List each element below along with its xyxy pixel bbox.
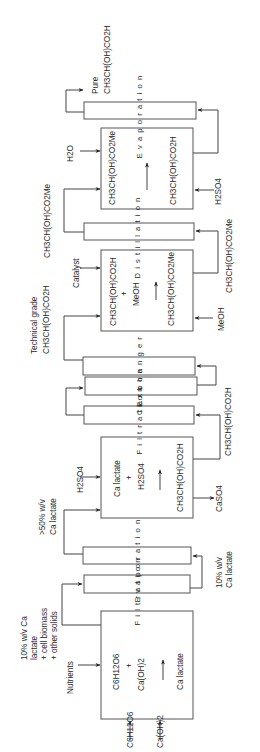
crude-lactic-acid-label: CH3CH(OH)CO2H bbox=[224, 387, 233, 456]
methyl-lactate-label: CH3CH(OH)CO2Me bbox=[225, 218, 234, 293]
broth-label-line3: + cell biomass bbox=[40, 608, 49, 660]
fermenter-ca-lactate-text: Ca lactate bbox=[176, 653, 185, 690]
broth-label-line2: lactate bbox=[30, 635, 39, 660]
esterification-to-distillation-arrow bbox=[193, 231, 218, 273]
fermenter-caoh2-text: Ca(OH)2 bbox=[137, 658, 146, 691]
evaporation-2-label: Evaporation bbox=[135, 72, 144, 159]
distilled-ester-label: CH3CH(OH)CO2Me bbox=[43, 183, 52, 258]
meoh-feed-label: MeOH bbox=[217, 307, 226, 331]
esterification-meoh-text: MeOH bbox=[132, 282, 141, 306]
hydrolysis-methyl-lactate-text: CH3CH(OH)CO2Me bbox=[108, 130, 117, 205]
caoh2-feed-label: Ca(OH)2 bbox=[156, 715, 165, 748]
water-feed-label: H2O bbox=[66, 145, 75, 162]
pure-product-arrow bbox=[66, 90, 84, 112]
fermenter-glucose-text: C6H12O6 bbox=[112, 653, 121, 690]
acidification-lactic-acid-text: CH3CH(OH)CO2H bbox=[176, 443, 185, 512]
pure-product-label-line1: Pure bbox=[91, 76, 100, 94]
process-flow-diagram: C6H12O6 + Ca(OH)2 Ca lactate C6H12O6 Ca(… bbox=[0, 0, 260, 752]
concentrate-label-line2: Ca lactate bbox=[49, 498, 58, 535]
exchanger-label: Exchanger bbox=[135, 333, 144, 407]
evaporation-1-label: Evaporation bbox=[133, 516, 142, 603]
distillation-label: Distillation bbox=[133, 193, 142, 278]
filtration-to-evaporation-arrow bbox=[190, 556, 202, 588]
esterification-lactic-acid-text: CH3CH(OH)CO2H bbox=[109, 257, 118, 326]
filtrate-label-line1: 10% w/v bbox=[215, 556, 224, 588]
catalyst-label: Catalyst bbox=[72, 258, 81, 288]
acidification-h2so4-text: H2SO4 bbox=[137, 463, 146, 490]
nutrients-label: Nutrients bbox=[66, 661, 75, 694]
glucose-feed-label: C6H12O6 bbox=[126, 711, 135, 748]
carbon-to-exchanger-arrow bbox=[197, 366, 216, 385]
broth-label-line1: 10% w/v Ca bbox=[20, 616, 29, 660]
caso4-label: CaSO4 bbox=[215, 485, 224, 512]
acidification-plus-text: + bbox=[125, 475, 134, 480]
technical-grade-label-line2: CH3CH(OH)CO2H bbox=[42, 285, 51, 354]
acidification-to-filtration-arrow bbox=[193, 415, 220, 459]
h2so4-acid-label: H2SO4 bbox=[76, 466, 85, 493]
exchanger-to-esterification-arrow bbox=[64, 316, 100, 360]
pure-product-label-line2: CH3CH(OH)CO2H bbox=[103, 25, 112, 94]
filtrate-label-line2: Ca lactate bbox=[225, 551, 234, 588]
h2so4-hydrolysis-label: H2SO4 bbox=[214, 178, 223, 205]
acidification-ca-lactate-text: Ca lactate bbox=[113, 460, 122, 497]
concentrate-label-line1: >50% w/v bbox=[38, 498, 47, 535]
fermenter-plus-text: + bbox=[125, 663, 134, 668]
hydrolysis-lactic-acid-text: CH3CH(OH)CO2H bbox=[169, 136, 178, 205]
technical-grade-label-line1: Technical grade bbox=[30, 296, 39, 354]
filtration-to-carbon-arrow bbox=[66, 388, 84, 415]
hydrolysis-to-evaporation-arrow bbox=[193, 110, 218, 153]
broth-label-line4: + other solids bbox=[50, 611, 59, 660]
esterification-methyl-lactate-text: CH3CH(OH)CO2Me bbox=[167, 251, 176, 326]
esterification-plus-text: + bbox=[120, 291, 129, 296]
